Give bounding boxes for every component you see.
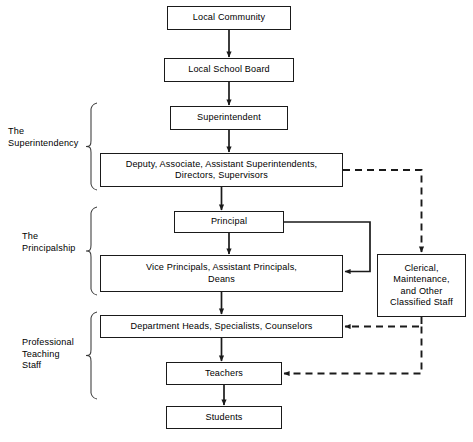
node-principal: Principal [174,211,284,233]
node-students: Students [166,406,282,429]
group-braces [86,103,97,399]
node-local-community: Local Community [167,6,291,30]
connector-clerical-to-department-heads [345,317,422,327]
brace-professional-teaching [86,312,97,399]
node-department-heads: Department Heads, Specialists, Counselor… [100,315,343,338]
org-chart-diagram: Local CommunityLocal School BoardSuperin… [0,0,473,442]
group-label-the-superintendency: The Superintendency [8,126,79,149]
node-deputy-associate: Deputy, Associate, Assistant Superintend… [100,153,343,187]
connector-deputy-to-clerical [343,170,422,252]
group-label-the-principalship: The Principalship [22,231,76,254]
brace-the-principalship [86,207,97,295]
node-vice-principals: Vice Principals, Assistant Principals, D… [100,255,343,292]
node-clerical-staff: Clerical, Maintenance, and Other Classif… [377,254,466,317]
node-superintendent: Superintendent [170,106,288,130]
group-label-professional-teaching: Professional Teaching Staff [22,337,74,372]
node-local-school-board: Local School Board [164,58,294,82]
node-teachers: Teachers [166,362,282,385]
brace-the-superintendency [86,103,97,190]
